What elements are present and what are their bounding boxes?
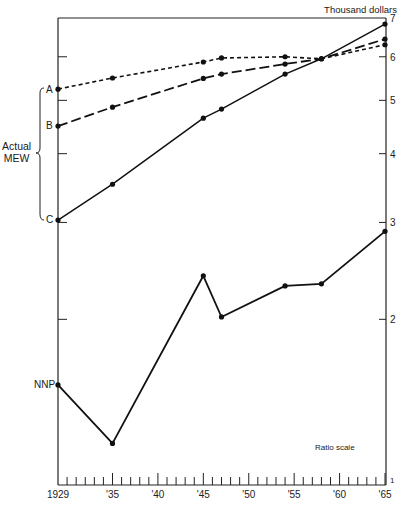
- data-point-b: [201, 76, 206, 81]
- data-point-b: [55, 123, 60, 128]
- data-point-c: [382, 21, 387, 26]
- y-tick-label: 5: [390, 95, 396, 106]
- actual-label: Actual: [2, 140, 31, 152]
- data-point-a: [201, 59, 206, 64]
- data-point-c: [55, 217, 60, 222]
- data-point-b: [110, 105, 115, 110]
- x-tick-label: '50: [242, 489, 255, 500]
- data-point-a: [382, 42, 387, 47]
- ratio-scale-note: Ratio scale: [315, 444, 355, 452]
- data-point-nnp: [110, 441, 115, 446]
- series-label-c: C: [46, 215, 53, 225]
- x-tick-label: '60: [333, 489, 346, 500]
- data-point-b: [282, 61, 287, 66]
- data-point-nnp: [55, 382, 60, 387]
- data-point-c: [219, 107, 224, 112]
- data-point-nnp: [382, 229, 387, 234]
- data-point-a: [110, 75, 115, 80]
- chart-canvas: 12345671929'35'40'45'50'55'60'65: [0, 0, 401, 509]
- y-axis-unit-label: Thousand dollars: [324, 5, 397, 15]
- series-line-nnp: [58, 231, 385, 443]
- data-point-a: [55, 87, 60, 92]
- mew-label: MEW: [2, 152, 31, 164]
- y-tick-label: 4: [390, 149, 396, 160]
- data-point-nnp: [219, 314, 224, 319]
- data-point-b: [382, 37, 387, 42]
- series-line-b: [58, 39, 385, 126]
- y-tick-label: 6: [390, 52, 396, 63]
- data-point-c: [319, 56, 324, 61]
- x-tick-label: '55: [288, 489, 301, 500]
- x-tick-label: '35: [106, 489, 119, 500]
- data-point-nnp: [282, 283, 287, 288]
- data-point-b: [219, 72, 224, 77]
- series-label-nnp: NNP: [34, 380, 55, 390]
- x-tick-label: '65: [378, 489, 391, 500]
- bracket-brace: [36, 88, 44, 220]
- data-point-c: [201, 116, 206, 121]
- x-tick-label: '40: [151, 489, 164, 500]
- actual-mew-label: Actual MEW: [2, 140, 31, 164]
- data-point-nnp: [319, 281, 324, 286]
- series-label-a: A: [46, 85, 53, 95]
- x-tick-label: 1929: [47, 489, 70, 500]
- data-point-c: [282, 72, 287, 77]
- y-tick-label: 3: [390, 217, 396, 228]
- data-point-c: [110, 182, 115, 187]
- y-tick-label: 1: [390, 476, 395, 485]
- series-label-b: B: [46, 121, 53, 131]
- data-point-nnp: [201, 273, 206, 278]
- data-point-a: [219, 55, 224, 60]
- x-tick-label: '45: [197, 489, 210, 500]
- y-tick-label: 2: [390, 314, 396, 325]
- data-point-a: [282, 54, 287, 59]
